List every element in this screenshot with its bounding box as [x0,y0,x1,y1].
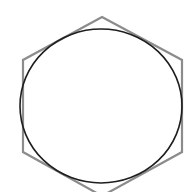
diagram-canvas [0,0,195,192]
hexagon-circle-diagram [0,0,195,192]
inscribed-circle-shape [20,29,182,183]
hexagon-shape [23,17,182,192]
